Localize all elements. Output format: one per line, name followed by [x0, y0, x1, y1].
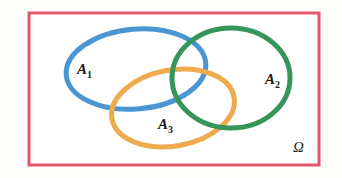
venn-diagram-canvas: A1 A2 A3 Ω [0, 0, 342, 178]
venn-diagram-figure: A1 A2 A3 Ω [0, 0, 342, 178]
omega-symbol: Ω [293, 139, 304, 155]
